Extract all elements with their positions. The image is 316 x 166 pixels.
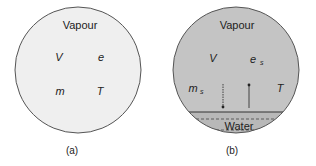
svg-text:e: e	[250, 53, 256, 65]
caption-a: (a)	[66, 145, 78, 156]
svg-text:m: m	[188, 82, 197, 94]
vapour-pressure-label-a: e	[98, 51, 104, 63]
evaporation-diagram: Vapour V e m T (a) Vapour V e s m s T	[0, 0, 316, 166]
vapour-label-b: Vapour	[220, 19, 255, 31]
caption-b: (b)	[226, 145, 238, 156]
vapour-label-a: Vapour	[63, 19, 98, 31]
water-label: Water	[225, 120, 254, 132]
svg-text:s: s	[200, 88, 204, 95]
panel-a: Vapour V e m T (a)	[15, 7, 141, 156]
mass-label-a: m	[55, 85, 64, 97]
panel-b: Vapour V e s m s T Water (b)	[170, 7, 310, 156]
svg-text:s: s	[260, 59, 264, 66]
